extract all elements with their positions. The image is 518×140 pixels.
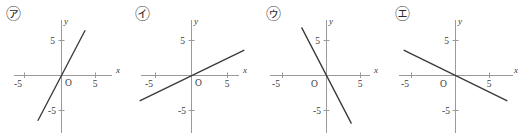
y-tick-label-pos5: 5 bbox=[50, 36, 55, 46]
y-axis-label: y bbox=[457, 16, 462, 26]
graph-panel-i: ㋑ -5 5 5 -5 x y O bbox=[129, 0, 258, 140]
coordinate-plot-a: -5 5 5 -5 x y O bbox=[0, 0, 129, 140]
graph-panel-e: ㋓ -5 5 5 -5 x y O bbox=[389, 0, 518, 140]
x-tick-label-pos5: 5 bbox=[225, 79, 230, 89]
graph-panel-a: ㋐ -5 5 5 -5 x y O bbox=[0, 0, 129, 140]
coordinate-plot-u: -5 5 5 -5 x y O bbox=[260, 0, 389, 140]
x-tick-label-pos5: 5 bbox=[487, 79, 492, 89]
y-tick-label-neg5: -5 bbox=[313, 106, 321, 116]
x-axis-label: x bbox=[373, 65, 378, 75]
coordinate-plot-e: -5 5 5 -5 x y O bbox=[389, 0, 518, 140]
x-axis-label: x bbox=[513, 65, 518, 75]
y-tick-label-neg5: -5 bbox=[178, 106, 186, 116]
y-tick-label-pos5: 5 bbox=[180, 36, 185, 46]
origin-label: O bbox=[440, 79, 447, 89]
x-tick-label-pos5: 5 bbox=[358, 79, 363, 89]
origin-label: O bbox=[311, 79, 318, 89]
y-tick-label-pos5: 5 bbox=[444, 36, 449, 46]
x-tick-label-neg5: -5 bbox=[401, 79, 409, 89]
origin-label: O bbox=[195, 78, 202, 88]
x-axis-label: x bbox=[242, 65, 247, 75]
x-tick-label-pos5: 5 bbox=[93, 79, 98, 89]
y-axis-label: y bbox=[63, 16, 68, 26]
x-tick-label-neg5: -5 bbox=[272, 79, 280, 89]
y-tick-label-neg5: -5 bbox=[442, 106, 450, 116]
x-tick-label-neg5: -5 bbox=[14, 79, 22, 89]
graph-panel-u: ㋒ -5 5 5 -5 x y O bbox=[260, 0, 389, 140]
y-axis-label: y bbox=[193, 16, 198, 26]
origin-label: O bbox=[65, 78, 72, 88]
x-axis-label: x bbox=[115, 65, 120, 75]
coordinate-plot-i: -5 5 5 -5 x y O bbox=[129, 0, 258, 140]
y-tick-label-neg5: -5 bbox=[48, 106, 56, 116]
y-axis-label: y bbox=[328, 16, 333, 26]
x-tick-label-neg5: -5 bbox=[145, 79, 153, 89]
y-tick-label-pos5: 5 bbox=[315, 36, 320, 46]
